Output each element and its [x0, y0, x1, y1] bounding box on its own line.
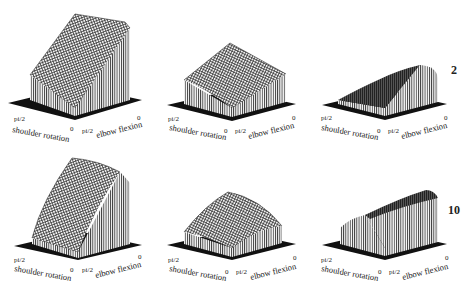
panel-r1-c1: pi/2 shoulder rotation 0 pi/2 elbow flex… [8, 14, 144, 144]
axis-tick-pi2-elbow: pi/2 [236, 268, 247, 276]
axis-label-shoulder: shoulder rotation [321, 263, 380, 283]
axis-label-shoulder: shoulder rotation [169, 263, 228, 283]
axis-tick-pi2-shoulder: pi/2 [321, 114, 332, 122]
panel-r1-c2: pi/2 shoulder rotation 0 pi/2 elbow flex… [167, 43, 296, 142]
axis-label-elbow: elbow flexion [401, 261, 450, 282]
axis-tick-pi2-elbow: pi/2 [82, 266, 93, 274]
axis-tick-zero-elbow: 0 [138, 253, 142, 261]
panel-r1-c3: pi/2 shoulder rotation 0 pi/2 elbow flex… [321, 65, 449, 142]
axis-tick-zero-elbow: 0 [445, 254, 449, 262]
axis-tick-zero-shoulder: 0 [225, 268, 229, 276]
axis-tick-pi2-elbow: pi/2 [389, 268, 400, 276]
axis-tick-zero-elbow: 0 [444, 114, 448, 122]
axis-tick-zero-shoulder: 0 [377, 127, 381, 135]
axis-label-elbow: elbow flexion [249, 261, 298, 282]
axis-tick-pi2-shoulder: pi/2 [14, 115, 25, 123]
panel-r2-c3: pi/2 shoulder rotation 0 pi/2 elbow flex… [321, 190, 450, 283]
axis-label-shoulder: shoulder rotation [12, 124, 71, 144]
axis-tick-zero-shoulder: 0 [70, 125, 74, 133]
panel-r2-c2: pi/2 shoulder rotation 0 pi/2 elbow flex… [167, 192, 298, 283]
axis-label-shoulder: shoulder rotation [169, 122, 228, 142]
axis-tick-zero-shoulder: 0 [70, 266, 74, 274]
row-label-10: 10 [448, 203, 460, 218]
panel-r2-c1: pi/2 shoulder rotation 0 pi/2 elbow flex… [14, 158, 143, 283]
axis-tick-pi2-elbow: pi/2 [235, 127, 246, 135]
row-label-2: 2 [451, 63, 457, 78]
axis-tick-zero-elbow: 0 [292, 114, 296, 122]
axis-tick-pi2-elbow: pi/2 [82, 127, 93, 135]
surface-plot-grid: pi/2 shoulder rotation 0 pi/2 elbow flex… [0, 0, 475, 295]
axis-tick-zero-shoulder: 0 [224, 127, 228, 135]
axis-label-shoulder: shoulder rotation [14, 263, 73, 283]
axis-label-elbow: elbow flexion [247, 120, 296, 141]
axis-tick-zero-elbow: 0 [293, 254, 297, 262]
axis-label-elbow: elbow flexion [400, 120, 449, 141]
axis-label-elbow: elbow flexion [94, 259, 143, 280]
axis-tick-zero-shoulder: 0 [378, 268, 382, 276]
axis-tick-pi2-elbow: pi/2 [388, 127, 399, 135]
axis-tick-zero-elbow: 0 [137, 114, 141, 122]
axis-label-shoulder: shoulder rotation [321, 122, 380, 142]
